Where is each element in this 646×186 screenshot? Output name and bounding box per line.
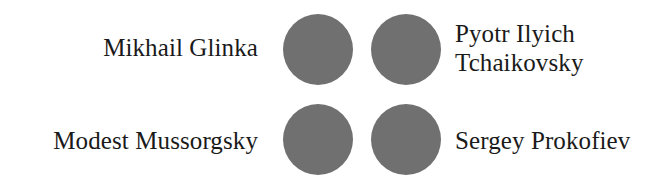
match-marker-cell-right-2 — [365, 107, 446, 175]
circle-marker-icon[interactable] — [371, 104, 441, 175]
match-left-label-1[interactable]: Mikhail Glinka — [0, 33, 270, 63]
match-right-label-2[interactable]: Sergey Prokofiev — [446, 126, 646, 156]
circle-marker-icon[interactable] — [371, 14, 441, 85]
match-marker-cell-right-1 — [365, 11, 446, 85]
match-left-label-2[interactable]: Modest Mussorgsky — [0, 126, 270, 156]
match-right-label-1[interactable]: Pyotr Ilyich Tchaikovsky — [446, 19, 646, 78]
circle-marker-icon[interactable] — [283, 104, 353, 175]
match-row: Modest Mussorgsky Sergey Prokofiev — [0, 96, 646, 186]
match-marker-cell-left-2 — [270, 107, 365, 175]
match-row: Mikhail Glinka Pyotr Ilyich Tchaikovsky — [0, 0, 646, 96]
circle-marker-icon[interactable] — [283, 14, 353, 85]
match-marker-cell-left-1 — [270, 11, 365, 85]
matching-exercise: Mikhail Glinka Pyotr Ilyich Tchaikovsky … — [0, 0, 646, 186]
